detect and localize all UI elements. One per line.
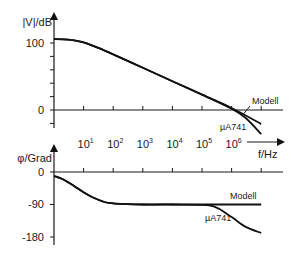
phase-annotation-modell: Modell: [230, 191, 257, 201]
magnitude-annotation-leader: [242, 106, 250, 116]
frequency-tick-label: 104: [166, 137, 182, 150]
phase-y-tick-label: 0: [38, 166, 44, 178]
frequency-axis-label: f/Hz: [258, 148, 278, 160]
frequency-tick-label: 103: [137, 137, 153, 150]
magnitude-y-tick-label: 0: [38, 104, 44, 116]
phase-y-tick-label: -90: [28, 198, 44, 210]
phase-annotation-ua741: µA741: [205, 213, 231, 223]
magnitude-curve-a741: [54, 39, 261, 134]
magnitude-plot: |V|/dB 1000 Modell µA741: [22, 14, 283, 134]
frequency-tick-label: 106: [226, 137, 242, 150]
magnitude-y-label: |V|/dB: [22, 16, 52, 28]
magnitude-curve-modell: [54, 39, 261, 124]
frequency-tick-label: 101: [78, 137, 94, 150]
frequency-tick-labels: 101102103104105106: [78, 137, 242, 150]
frequency-tick-label: 105: [196, 137, 212, 150]
phase-y-label: φ/Grad: [17, 152, 52, 164]
phase-y-tick-label: -180: [22, 231, 44, 243]
magnitude-annotation-modell: Modell: [252, 96, 279, 106]
bode-plot: |V|/dB 1000 Modell µA741 101102103104105…: [0, 0, 300, 255]
magnitude-annotation-ua741: µA741: [220, 122, 246, 132]
frequency-tick-label: 102: [107, 137, 123, 150]
magnitude-y-tick-label: 100: [26, 37, 44, 49]
phase-plot: φ/Grad 0-90-180 Modell µA741: [17, 146, 283, 245]
